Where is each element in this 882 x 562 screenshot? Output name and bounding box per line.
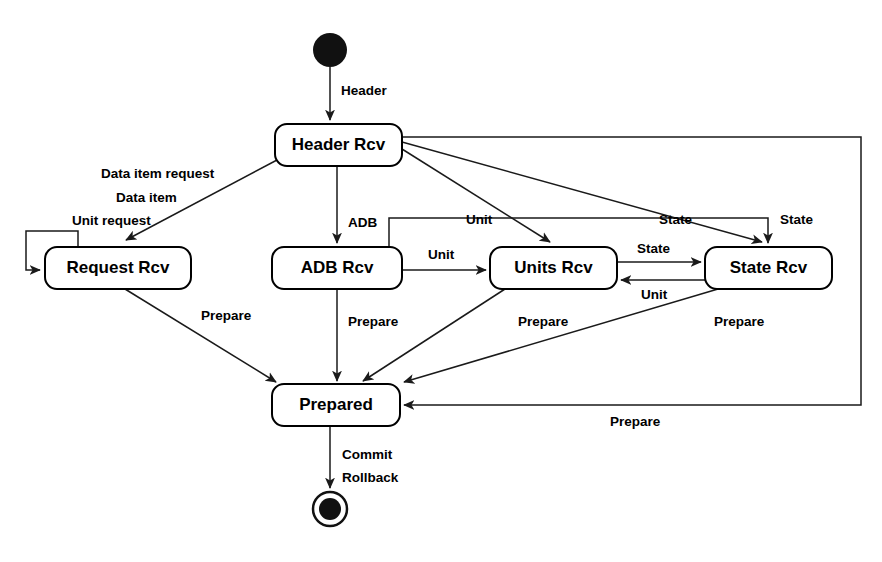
transition-label-adb: ADB <box>348 215 377 230</box>
transition-header-rcv-to-state-rcv <box>402 142 762 242</box>
transition-label-commit: Commit <box>342 447 393 462</box>
transition-label-unit-mid: Unit <box>428 247 455 262</box>
state-node-state-rcv[interactable]: State Rcv <box>705 247 832 289</box>
state-node-adb-rcv[interactable]: ADB Rcv <box>272 247 402 289</box>
state-node-request-rcv[interactable]: Request Rcv <box>45 247 191 289</box>
state-label-state-rcv: State Rcv <box>730 258 808 277</box>
transition-adb-rcv-to-state-rcv <box>389 218 768 247</box>
state-label-header-rcv: Header Rcv <box>292 135 386 154</box>
final-state-core <box>319 498 341 520</box>
state-node-header-rcv[interactable]: Header Rcv <box>275 124 402 166</box>
state-label-units-rcv: Units Rcv <box>514 258 593 277</box>
transition-label-prepare-adb: Prepare <box>348 314 399 329</box>
transition-label-prepare-units: Prepare <box>518 314 569 329</box>
transition-label-prepare-state: Prepare <box>714 314 765 329</box>
transition-label-prepare-request: Prepare <box>201 308 252 323</box>
state-node-units-rcv[interactable]: Units Rcv <box>490 247 617 289</box>
transition-label-state-down: State <box>780 212 814 227</box>
state-diagram-svg: Header Data item request Data item Unit … <box>0 0 882 562</box>
transition-label-rollback: Rollback <box>342 470 399 485</box>
transition-request-rcv-to-prepared <box>125 289 276 382</box>
state-node-prepared[interactable]: Prepared <box>272 384 400 426</box>
state-label-adb-rcv: ADB Rcv <box>301 258 374 277</box>
transition-label-header: Header <box>341 83 388 98</box>
transition-label-prepare-return: Prepare <box>610 414 661 429</box>
transition-label-state-mid: State <box>637 241 671 256</box>
state-label-request-rcv: Request Rcv <box>67 258 171 277</box>
transition-label-data-item-request: Data item request <box>101 166 215 181</box>
final-state <box>313 492 347 526</box>
transition-units-rcv-to-prepared <box>363 289 505 381</box>
transition-label-unit-back: Unit <box>641 287 668 302</box>
transition-label-data-item: Data item <box>116 190 177 205</box>
transition-label-state-top: State <box>659 212 693 227</box>
transition-state-rcv-to-prepared <box>404 289 718 382</box>
transition-label-unit-top: Unit <box>466 212 493 227</box>
state-label-prepared: Prepared <box>299 395 373 414</box>
state-diagram-canvas: Header Data item request Data item Unit … <box>0 0 882 562</box>
initial-pseudostate <box>313 33 347 67</box>
transition-label-unit-request: Unit request <box>72 213 151 228</box>
